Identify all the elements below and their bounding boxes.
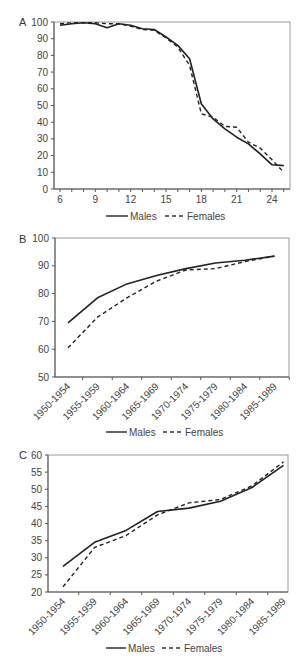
y-tick-label: 50 [31, 484, 43, 495]
legend-females-label: Females [187, 211, 225, 222]
y-tick-label: 90 [37, 33, 49, 44]
y-tick-label: 55 [31, 467, 43, 478]
y-tick-label: 40 [31, 518, 43, 529]
series-females [63, 462, 284, 587]
y-tick-label: 50 [38, 372, 50, 383]
y-tick-label: 80 [38, 288, 50, 299]
y-tick-label: 100 [32, 233, 49, 244]
y-tick-label: 40 [37, 117, 49, 128]
y-tick-label: 35 [31, 535, 43, 546]
series-males [63, 465, 284, 566]
legend-females-label: Females [184, 643, 222, 654]
x-tick-label: 9 [93, 194, 99, 205]
series-males [60, 23, 284, 166]
y-tick-label: 0 [42, 184, 48, 195]
figure: A B C 0102030405060708090100691215182124… [0, 0, 306, 663]
x-tick-label: 6 [57, 194, 63, 205]
y-tick-label: 25 [31, 569, 43, 580]
y-tick-label: 60 [38, 344, 50, 355]
y-tick-label: 90 [38, 260, 50, 271]
panel-label-c: C [19, 449, 27, 461]
chart-b: 50607080901001950-19541955-19591960-1964… [31, 233, 289, 423]
legend-males-label: Males [128, 643, 155, 654]
plot-frame [54, 22, 290, 189]
y-tick-label: 60 [37, 83, 49, 94]
y-tick-label: 10 [37, 167, 49, 178]
series-males [68, 256, 275, 323]
y-tick-label: 20 [37, 150, 49, 161]
x-tick-label: 21 [231, 194, 243, 205]
y-tick-label: 70 [38, 316, 50, 327]
legend-females-label: Females [185, 427, 223, 438]
series-females [60, 23, 284, 173]
y-tick-label: 100 [31, 17, 48, 28]
y-tick-label: 80 [37, 50, 49, 61]
y-tick-label: 50 [37, 100, 49, 111]
y-tick-label: 30 [37, 133, 49, 144]
y-tick-label: 30 [31, 552, 43, 563]
chart-a: 0102030405060708090100691215182124 [31, 17, 290, 206]
legend-males-label: Males [130, 211, 157, 222]
plot-frame [48, 455, 288, 592]
y-tick-label: 45 [31, 501, 43, 512]
x-tick-label: 18 [196, 194, 208, 205]
legend-b: Males Females [106, 427, 223, 438]
x-tick-label: 12 [125, 194, 137, 205]
legend-a: Males Females [106, 211, 225, 222]
panel-label-b: B [19, 233, 26, 245]
chart-c: 2025303540455055601950-19541955-19591960… [26, 450, 288, 638]
y-tick-label: 60 [31, 450, 43, 461]
legend-c: Males Females [106, 643, 222, 654]
legend-males-label: Males [129, 427, 156, 438]
y-tick-label: 20 [31, 587, 43, 598]
panel-label-a: A [19, 16, 27, 28]
x-tick-label: 24 [266, 194, 278, 205]
y-tick-label: 70 [37, 67, 49, 78]
series-females [68, 256, 275, 348]
x-tick-label: 15 [160, 194, 172, 205]
